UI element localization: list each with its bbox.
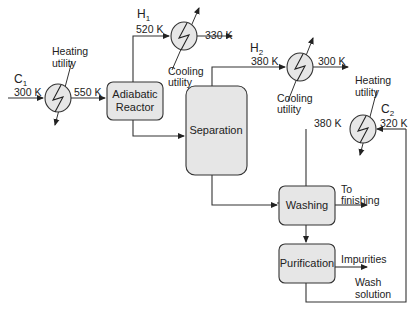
washing-label: Washing: [286, 199, 328, 211]
heat-exchanger-cooler-2: Cooling utility: [277, 38, 313, 115]
impurities-label: Impurities: [341, 253, 387, 265]
c2-outlet-temp: 380 K: [314, 117, 341, 129]
wash-solution-label: Wash: [355, 276, 382, 288]
h1-outlet-temp: 330 K: [205, 29, 232, 41]
reactor-label-2: Reactor: [116, 101, 155, 113]
heating-utility-2-label-2: utility: [355, 86, 380, 98]
heat-exchanger-cooler-1: Cooling utility: [168, 8, 204, 88]
purification-label: Purification: [280, 257, 334, 269]
cooling-utility-1-label-2: utility: [168, 76, 193, 88]
cooling-utility-2-label-2: utility: [277, 103, 302, 115]
h1-label: H1: [137, 7, 151, 23]
to-finishing-label-2: finishing: [341, 194, 380, 206]
washing-unit: Washing: [279, 186, 335, 225]
c2-label: C2: [381, 102, 395, 118]
heating-utility-1-label: Heating: [52, 45, 88, 57]
heat-exchanger-heater-1: Heating utility: [45, 45, 88, 125]
process-flow-diagram: C1 300 K 550 K Heating utility Adiabatic…: [0, 0, 416, 311]
h2-outlet-temp: 300 K: [318, 55, 345, 67]
separation-to-washing-line: [212, 175, 277, 205]
wash-solution-label-2: solution: [355, 288, 391, 300]
stream-h2: H2 380 K 300 K: [212, 41, 348, 86]
purification-unit: Purification: [279, 244, 335, 283]
adiabatic-reactor: Adiabatic Reactor: [107, 82, 163, 120]
h2-inlet-line: [212, 67, 285, 86]
h2-inlet-temp: 380 K: [251, 55, 278, 67]
separation-unit: Separation: [186, 86, 247, 175]
h1-inlet-line: [133, 36, 169, 82]
c1-outlet-temp: 550 K: [74, 86, 101, 98]
h1-inlet-temp: 520 K: [136, 23, 163, 35]
separation-label: Separation: [189, 124, 242, 136]
c1-inlet-temp: 300 K: [14, 86, 41, 98]
heating-utility-2-label: Heating: [355, 74, 391, 86]
c2-inlet-temp: 320 K: [380, 117, 407, 129]
reactor-label-1: Adiabatic: [112, 88, 158, 100]
heating-utility-1-label-2: utility: [52, 57, 77, 69]
reactor-to-separation-line: [133, 120, 184, 136]
